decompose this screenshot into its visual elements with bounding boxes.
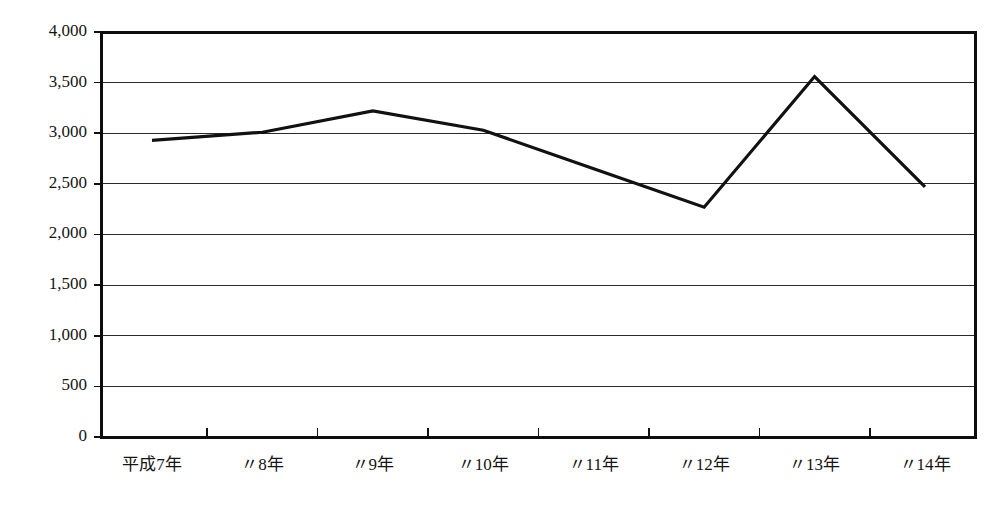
x-axis-tick-label: 〃11年 [569, 455, 619, 474]
line-chart: 05001,0001,5002,0002,5003,0003,5004,000 … [0, 0, 1008, 516]
data-series-line [152, 77, 925, 208]
y-axis-labels: 05001,0001,5002,0002,5003,0003,5004,000 [49, 21, 87, 445]
y-axis-tick-label: 2,500 [49, 173, 87, 192]
gridlines-group [101, 83, 975, 387]
x-axis-tick-label: 平成7年 [122, 455, 182, 474]
y-axis-tick-label: 0 [79, 426, 88, 445]
x-axis-tick-label: 〃10年 [458, 455, 509, 474]
y-axis-tick-label: 3,000 [49, 122, 87, 141]
chart-canvas: 05001,0001,5002,0002,5003,0003,5004,000 … [0, 0, 1008, 516]
x-axis-tick-label: 〃8年 [241, 455, 284, 474]
x-axis-tick-label: 〃9年 [352, 455, 395, 474]
y-axis-tick-label: 2,000 [49, 223, 87, 242]
y-axis-tick-label: 4,000 [49, 21, 87, 40]
x-axis-labels: 平成7年〃8年〃9年〃10年〃11年〃12年〃13年〃14年 [122, 455, 950, 474]
x-axis-tick-label: 〃14年 [900, 455, 951, 474]
y-axis-tick-label: 1,000 [49, 325, 87, 344]
x-axis-tick-label: 〃13年 [789, 455, 840, 474]
y-axis-tick-label: 1,500 [49, 274, 87, 293]
y-axis-tick-label: 3,500 [49, 72, 87, 91]
y-axis-tick-label: 500 [62, 375, 88, 394]
x-axis-tick-label: 〃12年 [679, 455, 730, 474]
